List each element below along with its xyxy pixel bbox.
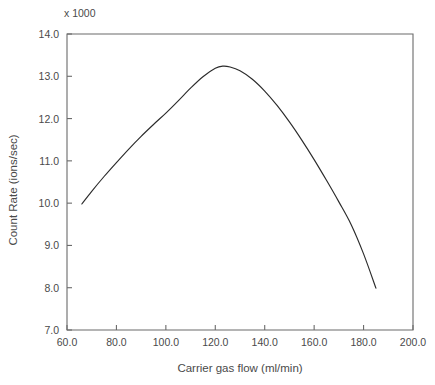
x-tick-label: 140.0 [252, 336, 278, 348]
y-tick-label: 11.0 [39, 155, 59, 167]
x-tick-label: 80.0 [106, 336, 127, 348]
y-axis-multiplier-label: x 1000 [64, 7, 96, 19]
x-tick-label: 200.0 [400, 336, 426, 348]
y-tick-label: 13.0 [39, 70, 60, 82]
y-tick-label: 8.0 [44, 282, 59, 294]
x-tick-label: 120.0 [202, 336, 228, 348]
y-tick-label: 10.0 [39, 197, 60, 209]
x-axis-title: Carrier gas flow (ml/min) [177, 362, 302, 374]
y-tick-label: 14.0 [39, 28, 60, 40]
x-tick-label: 180.0 [350, 336, 376, 348]
y-tick-label: 9.0 [44, 239, 59, 251]
chart-figure: x 1000 60.080.0100.0120.0140.0160.0180.0… [0, 0, 435, 385]
y-tick-label: 12.0 [39, 113, 60, 125]
chart-background [0, 0, 435, 385]
y-axis-title: Count Rate (ions/sec) [7, 134, 19, 245]
x-tick-label: 160.0 [301, 336, 327, 348]
line-chart: x 1000 60.080.0100.0120.0140.0160.0180.0… [0, 0, 435, 385]
y-tick-label: 7.0 [44, 324, 59, 336]
x-tick-label: 100.0 [153, 336, 179, 348]
x-tick-label: 60.0 [57, 336, 78, 348]
